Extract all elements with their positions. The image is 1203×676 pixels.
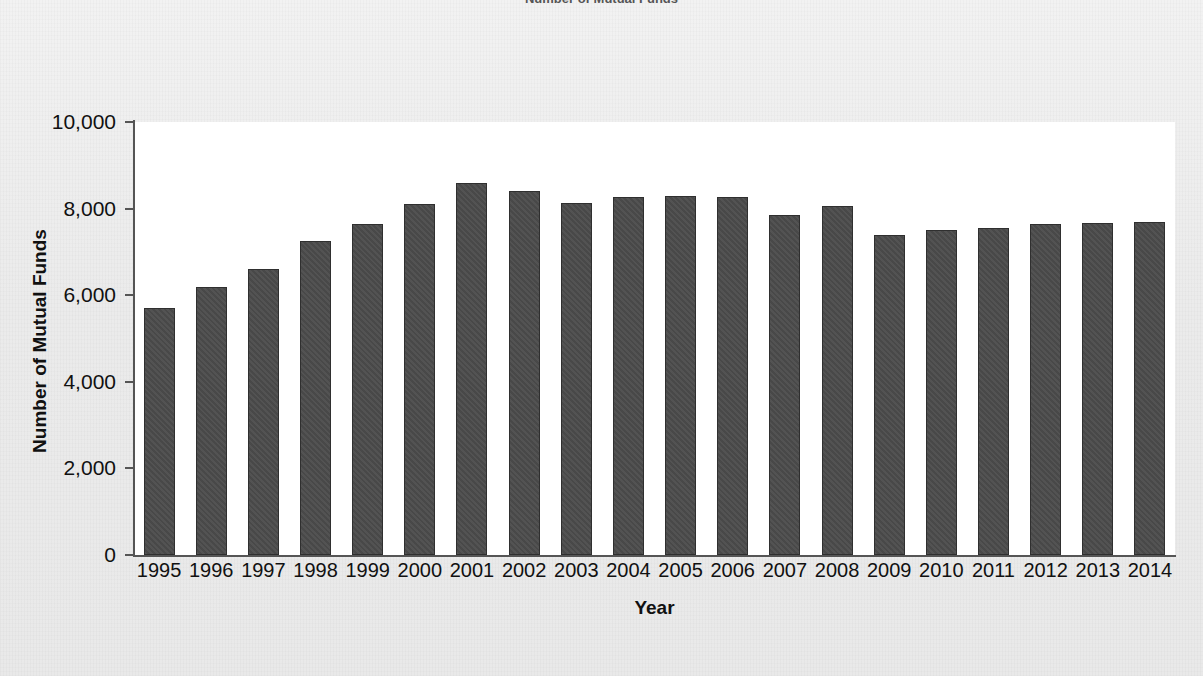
y-tick-mark xyxy=(125,294,134,296)
y-axis-title: Number of Mutual Funds xyxy=(29,196,51,486)
bar xyxy=(196,287,227,555)
y-tick-mark xyxy=(125,121,134,123)
y-tick-mark xyxy=(125,467,134,469)
x-tick-label: 2014 xyxy=(1118,560,1182,580)
bar xyxy=(561,203,592,555)
x-axis-line xyxy=(133,555,1176,557)
bar xyxy=(822,206,853,555)
bar xyxy=(1030,224,1061,555)
bar xyxy=(874,235,905,555)
bar xyxy=(926,230,957,555)
bar xyxy=(613,197,644,555)
bar xyxy=(1134,222,1165,555)
bar xyxy=(769,215,800,555)
bar xyxy=(248,269,279,555)
chart-page: Number of Mutual Funds 02,0004,0006,0008… xyxy=(0,0,1203,676)
y-tick-mark xyxy=(125,208,134,210)
bar xyxy=(300,241,331,555)
y-tick-mark xyxy=(125,554,134,556)
bar xyxy=(456,183,487,555)
bar xyxy=(404,204,435,555)
x-axis-title: Year xyxy=(133,597,1176,619)
y-axis-line xyxy=(133,120,135,557)
bar xyxy=(1082,223,1113,555)
bar xyxy=(665,196,696,555)
bar xyxy=(509,191,540,555)
chart-title-clipped: Number of Mutual Funds xyxy=(0,0,1203,6)
y-tick-label: 10,000 xyxy=(16,111,116,132)
y-tick-mark xyxy=(125,381,134,383)
bar xyxy=(717,197,748,555)
plot-area xyxy=(133,122,1175,556)
bar xyxy=(978,228,1009,555)
bar xyxy=(144,308,175,555)
y-tick-label: 0 xyxy=(16,544,116,565)
bar xyxy=(352,224,383,555)
